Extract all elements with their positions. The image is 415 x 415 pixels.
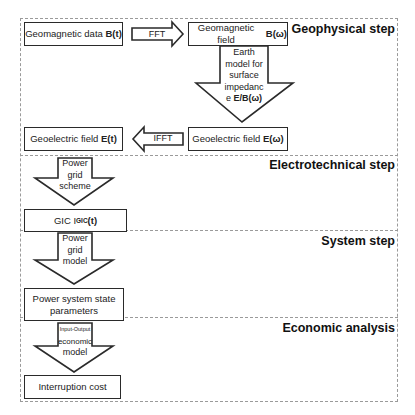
node-interruption-cost: Interruption cost — [24, 375, 121, 399]
node-subscript: GIC — [76, 215, 88, 227]
node-label: GIC I — [54, 215, 76, 227]
label-line: Earth — [218, 47, 270, 59]
node-gic: GIC IGIC(t) — [24, 209, 127, 232]
node-label: Geomagnetic field — [189, 22, 263, 46]
label-line: model — [50, 347, 100, 359]
earth-model-label: Earth model for surface impedanc e E/B(ω… — [218, 47, 270, 105]
node-label: Geoelectric field — [30, 133, 98, 145]
label-line: surface — [218, 70, 270, 82]
label-line: e E/B(ω) — [218, 93, 270, 105]
label-line: model for — [218, 59, 270, 71]
fft-label: FFT — [140, 29, 174, 41]
economic-model-label: Input-Output economic model — [50, 324, 100, 359]
ifft-label: IFFT — [146, 133, 180, 145]
node-symbol: E(ω) — [263, 133, 284, 145]
node-geomagnetic-field: Geomagnetic field B(ω) — [188, 22, 288, 46]
label-line: Power system state — [33, 293, 116, 305]
label-line: economic — [50, 336, 100, 348]
label-line: Power — [52, 233, 98, 245]
label-line: Power — [52, 158, 98, 170]
node-geomagnetic-data: Geomagnetic data B(t) — [24, 22, 123, 46]
label-symbol: E/B(ω) — [233, 93, 262, 103]
node-symbol: E(t) — [101, 133, 117, 145]
label-line: model — [52, 256, 98, 268]
node-power-system-state: Power system state parameters — [24, 288, 124, 321]
node-geoelectric-field-time: Geoelectric field E(t) — [24, 127, 123, 151]
label-line: Input-Output — [50, 324, 100, 336]
label-line: grid — [52, 170, 98, 182]
power-grid-model-label: Power grid model — [52, 233, 98, 268]
power-grid-scheme-label: Power grid scheme — [52, 158, 98, 193]
node-label: Geoelectric field — [192, 133, 260, 145]
node-label: Geomagnetic data — [25, 28, 103, 40]
node-geoelectric-field-omega: Geoelectric field E(ω) — [188, 127, 288, 151]
node-suffix: (t) — [88, 215, 98, 227]
label-line: parameters — [50, 305, 98, 317]
label-line: impedanc — [218, 82, 270, 94]
label-line: scheme — [52, 181, 98, 193]
label-line: grid — [52, 245, 98, 257]
node-symbol: B(t) — [105, 28, 121, 40]
node-symbol: B(ω) — [266, 28, 287, 40]
